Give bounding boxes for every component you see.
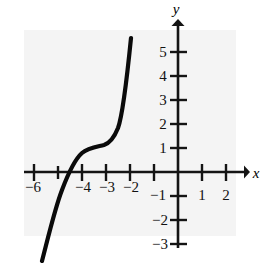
x-tick-label-1: 1 bbox=[198, 187, 206, 203]
y-tick-label--3: −3 bbox=[152, 236, 168, 252]
y-tick-label-4: 4 bbox=[159, 68, 167, 84]
x-tick-label--6: −6 bbox=[25, 179, 41, 195]
x-axis-arrow-icon bbox=[244, 166, 250, 179]
y-tick-label-5: 5 bbox=[159, 44, 167, 60]
y-axis-arrow-icon bbox=[172, 19, 185, 26]
y-axis-label: y bbox=[171, 1, 180, 17]
coordinate-plane: y x −6 −4 −3 −2 −1 1 2 5 4 3 2 1 −2 −3 bbox=[0, 0, 263, 263]
x-tick-label--3: −3 bbox=[99, 179, 115, 195]
x-tick-label--1: −1 bbox=[150, 187, 166, 203]
y-tick-label--2: −2 bbox=[152, 212, 168, 228]
y-tick-label-1: 1 bbox=[159, 140, 167, 156]
x-tick-label--2: −2 bbox=[123, 179, 139, 195]
graph-figure: y x −6 −4 −3 −2 −1 1 2 5 4 3 2 1 −2 −3 bbox=[0, 0, 263, 263]
x-tick-label-2: 2 bbox=[222, 187, 230, 203]
y-tick-label-2: 2 bbox=[159, 116, 167, 132]
y-tick-label-3: 3 bbox=[159, 92, 167, 108]
x-axis-label: x bbox=[252, 165, 260, 181]
x-tick-label--4: −4 bbox=[75, 179, 91, 195]
